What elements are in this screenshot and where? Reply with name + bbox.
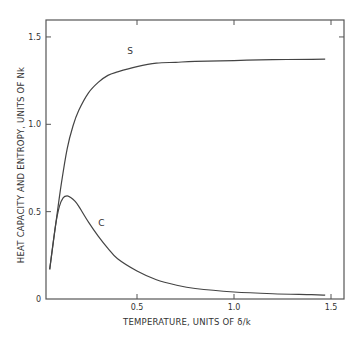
x-axis: 0.51.01.5 [131,20,338,312]
x-tick-label: 1.0 [228,303,241,312]
series-line-s [50,59,325,269]
series-label-c: C [98,218,104,228]
y-axis: 00.51.01.5 [28,33,344,304]
series-line-c [50,196,325,295]
y-tick-label: 1.0 [28,120,41,129]
y-tick-label: 0 [36,295,41,304]
y-tick-label: 0.5 [28,208,41,217]
series-group: SC [50,46,325,295]
y-axis-label: HEAT CAPACITY AND ENTROPY, UNITS OF Nk [16,67,26,263]
series-label-s: S [127,46,133,56]
x-axis-label: TEMPERATURE, UNITS OF δ/k [122,317,251,327]
x-tick-label: 0.5 [131,303,144,312]
y-tick-label: 1.5 [28,33,41,42]
x-tick-label: 1.5 [325,303,338,312]
chart: 00.51.01.5 0.51.01.5 SC TEMPERATURE, UNI… [0,0,363,344]
